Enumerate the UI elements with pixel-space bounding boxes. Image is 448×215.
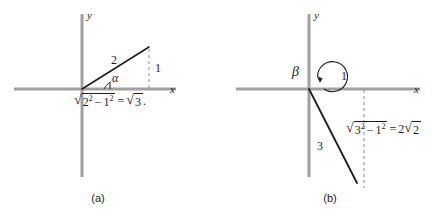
radicand-result-b: 2 <box>412 121 421 138</box>
angle-label-b: β <box>292 65 299 79</box>
panel-caption-b: (b) <box>300 192 360 204</box>
diagram-panel-b: x y β 1 3 √ 32−12 = 2 √ 2 (b) <box>224 0 448 215</box>
figure-container: x y 2 1 α √ 22−12 = √ 3 . (a) <box>0 0 448 215</box>
radicand-first-exp-b: 2 <box>361 122 365 131</box>
equals-sign-a: = <box>117 94 124 109</box>
radicand-result-a: 3 <box>134 93 143 110</box>
radicand-second-exp-a: 2 <box>109 94 113 103</box>
panel-caption-a: (a) <box>68 192 128 204</box>
radical-left-b: √ 32−12 <box>346 120 387 138</box>
radical-right-a: √ 3 <box>126 92 143 110</box>
radicand-first-exp-a: 2 <box>89 94 93 103</box>
angle-arrowhead-b <box>318 77 323 83</box>
radicand-left-a: 22−12 <box>82 93 116 110</box>
x-axis-label-a: x <box>170 84 175 95</box>
radicand-second-exp-b: 2 <box>381 122 385 131</box>
radical-sign-icon: √ <box>404 121 412 139</box>
radical-sign-icon: √ <box>74 93 82 111</box>
radical-left-a: √ 22−12 <box>74 92 115 110</box>
radical-sign-icon: √ <box>346 121 354 139</box>
equals-sign-b: = <box>389 122 396 137</box>
opposite-label-a: 1 <box>155 62 161 74</box>
adjacent-expression-b: √ 32−12 = 2 √ 2 <box>346 120 421 138</box>
radicand-left-b: 32−12 <box>354 121 388 138</box>
minus-sign-b: − <box>367 123 374 137</box>
trailing-period-a: . <box>143 94 146 109</box>
x-axis-label-b: x <box>414 84 419 95</box>
hypotenuse-label-b: 3 <box>317 140 323 152</box>
opposite-label-b: 1 <box>341 70 347 82</box>
minus-sign-a: − <box>95 95 102 109</box>
diagram-panel-a: x y 2 1 α √ 22−12 = √ 3 . (a) <box>0 0 224 215</box>
panel-b-graphics <box>224 0 448 215</box>
y-axis-label-b: y <box>314 10 319 21</box>
radical-right-b: √ 2 <box>404 120 421 138</box>
adjacent-expression-a: √ 22−12 = √ 3 . <box>74 92 146 110</box>
angle-label-a: α <box>112 72 118 84</box>
y-axis-label-a: y <box>87 10 92 21</box>
radical-sign-icon: √ <box>126 93 134 111</box>
hypotenuse-label-a: 2 <box>111 54 117 66</box>
